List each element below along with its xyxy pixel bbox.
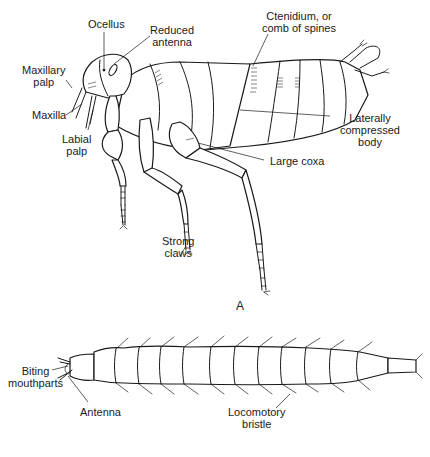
figure-canvas: Ocellus Reduced antenna Ctenidium, or co… <box>0 0 430 457</box>
leader-reduced-antenna <box>114 36 150 64</box>
leader-ctenidium <box>253 34 268 66</box>
label-maxilla: Maxilla <box>32 109 66 121</box>
label-maxillary-palp: Maxillary palp <box>22 64 65 88</box>
leader-maxillary-palp <box>66 80 72 88</box>
label-antenna: Antenna <box>80 406 121 418</box>
larva-drawing <box>52 336 422 408</box>
label-laterally-compressed-body: Laterally compressed body <box>340 112 400 148</box>
panel-label: A <box>236 300 244 312</box>
label-reduced-antenna: Reduced antenna <box>150 24 194 48</box>
label-biting-mouthparts: Biting mouthparts <box>8 365 63 389</box>
label-ctenidium: Ctenidium, or comb of spines <box>262 10 336 34</box>
label-locomotory-bristle: Locomotory bristle <box>228 406 285 430</box>
label-strong-claws: Strong claws <box>162 235 194 259</box>
label-labial-palp: Labial palp <box>62 133 91 157</box>
label-large-coxa: Large coxa <box>270 155 324 167</box>
label-ocellus: Ocellus <box>88 18 125 30</box>
flea-drawing <box>66 32 389 295</box>
